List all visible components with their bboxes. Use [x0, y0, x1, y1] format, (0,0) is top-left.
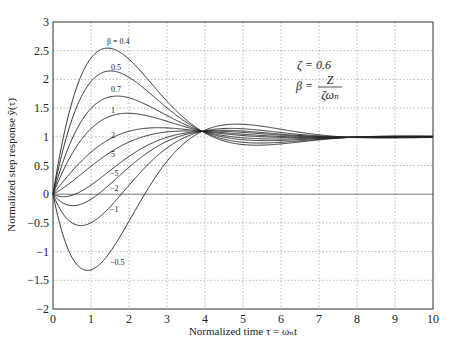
x-tick: 7 [316, 312, 322, 326]
x-tick: 10 [427, 312, 439, 326]
x-tick: 4 [202, 312, 208, 326]
curve-label: 2 [111, 131, 115, 140]
x-tick: 5 [240, 312, 246, 326]
beta-numerator: Z [327, 73, 334, 87]
y-tick: 0.5 [34, 159, 49, 173]
curve-label: −2 [110, 184, 119, 193]
curve-labels: β = 0.40.50.7125−5−2−1−0.5 [107, 37, 130, 267]
beta-denominator: ζωₙ [321, 88, 339, 102]
x-tick: 0 [50, 312, 56, 326]
series-curve [53, 113, 433, 194]
y-tick: 2.5 [34, 44, 49, 58]
curve-label: 5 [111, 150, 115, 159]
x-tick: 8 [354, 312, 360, 326]
y-tick: −1.5 [27, 273, 49, 287]
x-tick: 6 [278, 312, 284, 326]
y-tick: 2 [43, 72, 49, 86]
step-response-chart: 012345678910 −2−1.5−1−0.500.511.522.53 β… [0, 0, 453, 355]
y-tick: 0 [43, 187, 49, 201]
x-tick: 9 [392, 312, 398, 326]
x-tick: 1 [88, 312, 94, 326]
x-tick-labels: 012345678910 [50, 312, 439, 326]
y-tick: 1 [43, 130, 49, 144]
curve-label: 0.5 [111, 63, 121, 72]
x-axis-label: Normalized time τ = ωₙt [189, 325, 297, 337]
y-tick-labels: −2−1.5−1−0.500.511.522.53 [27, 15, 49, 316]
x-tick: 3 [164, 312, 170, 326]
y-axis-label: Normalized step response ỹ(τ) [5, 98, 18, 232]
zeta-annotation: ζ = 0.6 [297, 58, 331, 72]
parameter-annotation: ζ = 0.6 β = Z ζωₙ [295, 58, 342, 102]
y-tick: 1.5 [34, 101, 49, 115]
x-tick: 2 [126, 312, 132, 326]
curve-label: −0.5 [110, 258, 125, 267]
curve-label: β = 0.4 [107, 37, 130, 46]
y-tick: −0.5 [27, 216, 49, 230]
y-tick: −2 [36, 302, 49, 316]
y-tick: −1 [36, 245, 49, 259]
y-tick: 3 [43, 15, 49, 29]
curve-label: 1 [111, 106, 115, 115]
curve-label: 0.7 [111, 85, 121, 94]
beta-lhs: β = [295, 79, 313, 93]
curve-label: −1 [110, 205, 119, 214]
curve-label: −5 [110, 169, 119, 178]
